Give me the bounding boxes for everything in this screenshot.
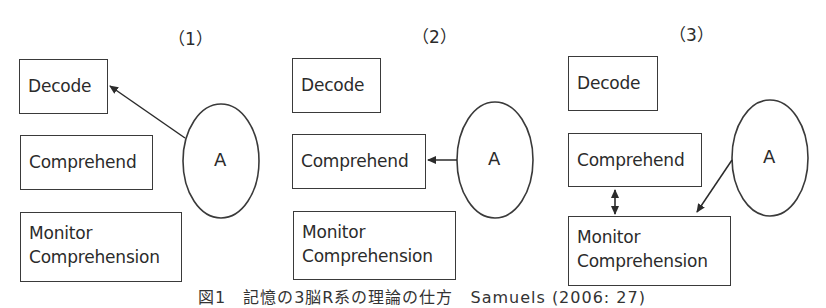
monitor-label-line1: Monitor xyxy=(302,220,365,244)
monitor-comprehension-box-1: Monitor Comprehension xyxy=(20,212,182,282)
comprehend-label: Comprehend xyxy=(301,149,409,173)
decode-label: Decode xyxy=(28,74,91,98)
monitor-label-line2: Comprehension xyxy=(577,249,708,273)
monitor-comprehension-box-2: Monitor Comprehension xyxy=(293,211,456,280)
monitor-label-line2: Comprehension xyxy=(29,245,160,269)
comprehend-label: Comprehend xyxy=(29,150,137,174)
monitor-label-line2: Comprehension xyxy=(302,244,433,268)
decode-label: Decode xyxy=(577,71,640,95)
comprehend-box-1: Comprehend xyxy=(20,135,153,190)
ellipse-label-2: A xyxy=(488,148,500,169)
decode-label: Decode xyxy=(301,73,364,97)
decode-box-2: Decode xyxy=(292,58,381,113)
monitor-label-line1: Monitor xyxy=(577,225,640,249)
decode-box-1: Decode xyxy=(19,59,108,114)
monitor-label-line1: Monitor xyxy=(29,221,92,245)
comprehend-box-2: Comprehend xyxy=(292,134,426,189)
comprehend-label: Comprehend xyxy=(577,148,685,172)
monitor-comprehension-box-3: Monitor Comprehension xyxy=(568,216,731,286)
arrow-a-to-decode-1 xyxy=(110,86,185,138)
panel-label-1: （1） xyxy=(168,29,213,49)
ellipse-label-3: A xyxy=(763,146,775,167)
comprehend-box-3: Comprehend xyxy=(568,133,702,187)
figure-caption: 図1 記憶の3脳R系の理論の仕方 Samuels (2006: 27) xyxy=(198,288,646,308)
panel-label-3: （3） xyxy=(669,25,714,45)
decode-box-3: Decode xyxy=(568,56,658,111)
arrow-a-to-monitor-3 xyxy=(697,160,732,212)
panel-label-2: （2） xyxy=(412,27,457,47)
ellipse-label-1: A xyxy=(214,149,226,170)
